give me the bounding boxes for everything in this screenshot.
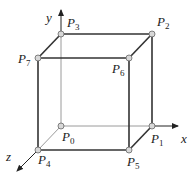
vertex-label-P5: P5	[126, 154, 140, 171]
z-axis	[17, 150, 38, 171]
vertex-P7	[35, 55, 41, 61]
vertex-label-P6: P6	[111, 61, 125, 78]
vertex-P3	[58, 31, 64, 37]
y-axis-label: y	[44, 10, 52, 25]
x-axis-label: x	[180, 131, 187, 146]
vertex-label-P1: P1	[150, 131, 163, 148]
vertex-P2	[149, 31, 155, 37]
edge-P7-P3	[38, 34, 61, 58]
vertex-label-P2: P2	[156, 14, 169, 31]
hidden-edge-P0-P4	[38, 126, 61, 150]
vertex-label-P0: P0	[61, 129, 75, 146]
vertex-label-P7: P7	[17, 51, 31, 68]
vertex-P6	[126, 55, 132, 61]
vertex-P5	[126, 147, 132, 153]
z-axis-label: z	[5, 149, 11, 164]
edge-P6-P2	[129, 34, 152, 58]
edge-P5-P1	[129, 126, 152, 150]
vertex-label-P3: P3	[66, 15, 80, 32]
vertex-label-P4: P4	[37, 152, 51, 169]
vertex-P1	[149, 123, 155, 129]
cube-diagram: xyzP0P1P2P3P4P5P6P7	[0, 0, 195, 181]
